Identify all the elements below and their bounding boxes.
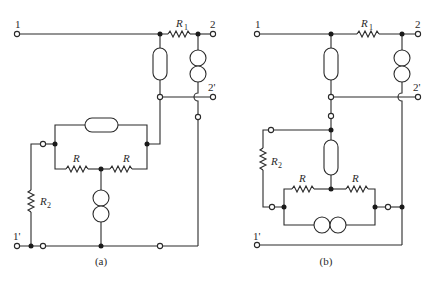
label-r2-b: R: [270, 155, 278, 167]
caption-b: (b): [320, 255, 333, 268]
terminal-2prime-a: [210, 94, 215, 99]
transformer-coil-lower-center-a: [93, 206, 109, 222]
label-r-left-a: R: [72, 152, 80, 164]
label-r-right-b: R: [351, 172, 359, 184]
terminal-1-a: [14, 31, 19, 36]
terminal-1prime-a: [14, 243, 19, 248]
terminal-2-b: [415, 31, 420, 36]
label-r2-sub-b: 2: [278, 161, 282, 170]
label-terminal-1prime-a: 1': [13, 230, 21, 242]
caption-a: (a): [95, 255, 108, 268]
resistor-r-right-a: [110, 166, 132, 172]
resistor-r-left-a: [66, 166, 88, 172]
lamp-capsule-vertical-a: [153, 48, 167, 80]
terminal-2-a: [210, 31, 215, 36]
circuit-b: 1 2 2' 1' R 1 R R R 2 (b): [253, 17, 421, 268]
transformer-coil-left-b: [314, 217, 330, 233]
resistor-r1-b: [357, 31, 379, 37]
transformer-coil-upper-center-a: [93, 190, 109, 206]
label-terminal-2-a: 2: [210, 18, 216, 30]
transformer-coil-lower-b: [394, 66, 410, 82]
label-r-right-a: R: [122, 152, 130, 164]
label-r1-a: R: [175, 17, 183, 29]
terminal-1prime-b: [254, 242, 259, 247]
lamp-capsule-lower-b: [324, 140, 338, 175]
label-terminal-2-b: 2: [415, 18, 421, 30]
transformer-coil-right-b: [330, 217, 346, 233]
label-r2-a: R: [39, 195, 47, 207]
label-terminal-2prime-a: 2': [208, 81, 216, 93]
resistor-r2-b: [260, 148, 266, 170]
lamp-capsule-horizontal-a: [85, 118, 118, 132]
lamp-capsule-upper-b: [324, 48, 338, 80]
circuit-figure: 1 2 2' 1' R 1 R R R 2 (a): [0, 0, 434, 284]
resistor-r-right-b: [346, 186, 368, 192]
label-r1-b: R: [360, 17, 368, 29]
label-terminal-1-a: 1: [15, 18, 21, 30]
terminal-1-b: [254, 31, 259, 36]
resistor-r2-a: [28, 190, 34, 212]
circuit-a: 1 2 2' 1' R 1 R R R 2 (a): [13, 17, 216, 268]
terminal-2prime-b: [415, 94, 420, 99]
label-terminal-2prime-b: 2': [413, 81, 421, 93]
transformer-coil-upper-b: [394, 50, 410, 66]
label-terminal-1-b: 1: [255, 18, 261, 30]
label-r1-sub-b: 1: [369, 23, 373, 32]
resistor-r-left-b: [292, 186, 314, 192]
label-r1-sub-a: 1: [184, 23, 188, 32]
transformer-coil-lower-a: [190, 66, 206, 82]
transformer-coil-upper-a: [190, 50, 206, 66]
label-r-left-b: R: [298, 172, 306, 184]
label-r2-sub-a: 2: [47, 201, 51, 210]
label-terminal-1prime-b: 1': [253, 230, 261, 242]
